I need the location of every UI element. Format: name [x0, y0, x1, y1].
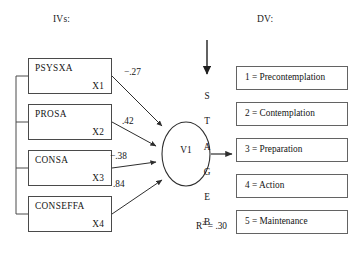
- iv-header-label: IVs:: [53, 14, 70, 24]
- iv-name-x3: CONSA: [35, 155, 68, 165]
- path-coefficient-x2: .42: [122, 116, 134, 126]
- dv-box-1[interactable]: 1 = Precontemplation: [236, 66, 348, 90]
- iv-bracket: [16, 76, 28, 214]
- iv-name-x2: PROSA: [35, 109, 67, 119]
- dv-header-label: DV:: [257, 14, 273, 24]
- iv-code-x1: X1: [92, 81, 104, 91]
- iv-box-x3[interactable]: CONSA X3: [28, 150, 112, 186]
- dv-label-1: 1 = Precontemplation: [245, 72, 325, 82]
- iv-box-x4[interactable]: CONSEFFA X4: [28, 196, 112, 232]
- path-coefficient-x3: −.38: [110, 151, 127, 161]
- path-arrow-x2: [112, 122, 156, 146]
- latent-variable-label: V1: [172, 145, 200, 155]
- path-diagram: IVs: DV: PSYSXA X1 PROSA X2 CONSA X3 CON…: [0, 0, 356, 258]
- iv-code-x3: X3: [92, 173, 104, 183]
- path-arrows: [112, 76, 162, 214]
- stage-letter-a: A: [200, 142, 214, 152]
- path-coefficient-x4: .84: [113, 179, 125, 189]
- iv-box-x2[interactable]: PROSA X2: [28, 104, 112, 140]
- stage-letter-e: E: [200, 192, 214, 202]
- stage-letter-t: T: [200, 116, 214, 126]
- dv-box-3[interactable]: 3 = Preparation: [236, 138, 348, 162]
- path-coefficient-x1: −.27: [124, 67, 141, 77]
- dv-label-2: 2 = Contemplation: [245, 108, 315, 118]
- dv-box-4[interactable]: 4 = Action: [236, 174, 348, 198]
- dv-box-2[interactable]: 2 = Contemplation: [236, 102, 348, 126]
- path-arrow-x3: [112, 162, 156, 168]
- iv-code-x2: X2: [92, 127, 104, 137]
- stage-letter-b: B: [200, 217, 214, 227]
- iv-name-x4: CONSEFFA: [35, 201, 85, 211]
- path-arrow-x1: [112, 76, 162, 126]
- stage-letter-s: S: [200, 91, 214, 101]
- iv-code-x4: X4: [92, 219, 104, 229]
- iv-box-x1[interactable]: PSYSXA X1: [28, 58, 112, 94]
- dv-label-4: 4 = Action: [245, 180, 284, 190]
- dv-label-5: 5 = Maintenance: [245, 216, 308, 226]
- dv-label-3: 3 = Preparation: [245, 144, 302, 154]
- dv-box-5[interactable]: 5 = Maintenance: [236, 210, 348, 234]
- stage-letter-g: G: [200, 167, 214, 177]
- iv-name-x1: PSYSXA: [35, 63, 73, 73]
